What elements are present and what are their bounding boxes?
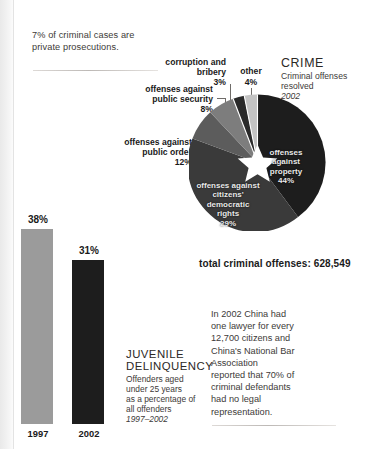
bar-value-2002: 31% bbox=[63, 245, 115, 256]
pie-label-other-pct: 4% bbox=[233, 77, 269, 87]
bar-value-1997: 38% bbox=[12, 214, 64, 225]
pie-label-corruption-line1: corruption and bbox=[140, 57, 226, 67]
juvenile-title-line2: DELINQUENCY bbox=[126, 360, 213, 373]
lawyer-note-line5: Association bbox=[211, 358, 258, 368]
lawyer-note-line8: had no legal bbox=[211, 394, 261, 404]
private-prosecution-note: 7% of criminal cases are private prosecu… bbox=[32, 29, 147, 54]
juvenile-body-line2: under 25 years bbox=[126, 384, 182, 394]
pie-inlabel-democratic-line4: rights bbox=[217, 209, 239, 218]
bar-1997 bbox=[21, 229, 53, 424]
total-criminal-offenses-label: total criminal offenses: 628,549 bbox=[199, 258, 351, 269]
pie-label-public-security-line1: offenses against bbox=[108, 84, 213, 94]
crime-section-title: CRIME bbox=[281, 57, 324, 70]
juvenile-body-line3: as a percentage of bbox=[126, 394, 195, 404]
pie-label-public-order-line2: public order bbox=[86, 147, 192, 157]
juvenile-body-years: 1997–2002 bbox=[126, 414, 168, 424]
lawyer-note-divider-rule bbox=[212, 425, 336, 426]
lawyer-note-line2: one lawyer for every bbox=[211, 321, 294, 331]
lawyer-note-line1: In 2002 China had bbox=[211, 309, 286, 319]
pie-label-public-order-line1: offenses against bbox=[86, 137, 192, 147]
pie-label-corruption-line2: bribery bbox=[140, 67, 226, 77]
juvenile-body-line1: Offenders aged bbox=[126, 374, 184, 384]
crime-subtitle-line1: Criminal offenses bbox=[281, 71, 347, 81]
pie-inlabel-property-line1: offenses bbox=[270, 148, 303, 157]
pie-inlabel-democratic-rights: offenses against citizens' democratic ri… bbox=[188, 181, 268, 228]
bar-year-2002: 2002 bbox=[63, 428, 115, 439]
pie-label-other: other bbox=[233, 66, 269, 76]
pie-inlabel-democratic-line2: citizens' bbox=[212, 190, 243, 199]
bar-year-1997: 1997 bbox=[12, 428, 64, 439]
juvenile-title-line1: JUVENILE bbox=[126, 348, 184, 361]
pie-inlabel-democratic-line1: offenses against bbox=[196, 181, 259, 190]
pie-inlabel-property-line2: against bbox=[272, 157, 300, 166]
pie-inlabel-democratic-line3: democratic bbox=[207, 200, 250, 209]
bar-2002 bbox=[72, 260, 104, 424]
pie-inlabel-democratic-pct: 29% bbox=[220, 219, 236, 228]
pie-inlabel-property-pct: 44% bbox=[278, 176, 294, 185]
lawyer-note-block: In 2002 China had one lawyer for every 1… bbox=[211, 308, 361, 418]
lawyer-note-line3: 12,700 citizens and bbox=[211, 333, 290, 343]
pie-inlabel-property: offenses against property 44% bbox=[258, 148, 314, 186]
crime-subtitle-line2: resolved bbox=[281, 81, 313, 91]
lawyer-note-line6: reported that 70% of bbox=[211, 370, 294, 380]
lawyer-note-line4: China's National Bar bbox=[211, 346, 294, 356]
juvenile-body-line4: all offenders bbox=[126, 404, 171, 414]
pie-inlabel-property-line3: property bbox=[270, 167, 302, 176]
lawyer-note-line7: criminal defendants bbox=[211, 382, 291, 392]
pie-label-public-order-pct: 12% bbox=[86, 157, 192, 167]
lawyer-note-line9: representation. bbox=[211, 407, 272, 417]
infographic-page: 7% of criminal cases are private prosecu… bbox=[0, 0, 366, 449]
